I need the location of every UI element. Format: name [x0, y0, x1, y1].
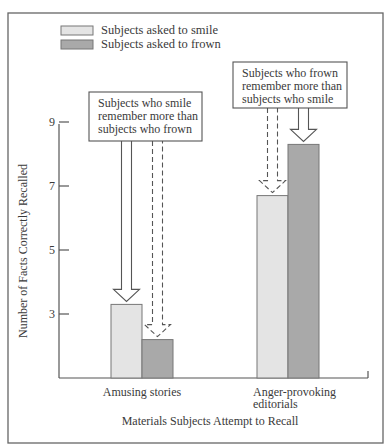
bar-smile [257, 196, 288, 378]
y-tick-label: 7 [49, 179, 55, 193]
y-axis-label: Number of Facts Correctly Recalled [16, 164, 30, 338]
bars [111, 144, 319, 378]
callout-text: remember more than [242, 79, 342, 93]
legend-swatch-smile [61, 26, 93, 35]
callout-text: subjects who smile [242, 92, 333, 106]
callout-text: subjects who frown [98, 122, 192, 136]
arrow-solid [291, 108, 317, 141]
chart-figure: Subjects asked to smile Subjects asked t… [0, 0, 390, 448]
legend-label-smile: Subjects asked to smile [101, 23, 218, 37]
callout-text: Subjects who frown [242, 66, 338, 80]
legend-label-frown: Subjects asked to frown [101, 37, 222, 51]
category-label: editorials [253, 397, 298, 411]
y-tick-label: 9 [49, 115, 55, 129]
x-axis-label: Materials Subjects Attempt to Recall [122, 414, 299, 428]
callout-text: remember more than [98, 109, 198, 123]
legend-swatch-frown [61, 40, 93, 49]
bar-frown [142, 340, 173, 378]
y-tick-label: 5 [49, 243, 55, 257]
bar-frown [288, 144, 319, 378]
bar-smile [111, 304, 142, 378]
annotation-callout: Subjects who smileremember more thansubj… [89, 92, 202, 337]
arrow-solid [114, 141, 140, 301]
y-tick-label: 3 [49, 307, 55, 321]
category-label: Amusing stories [103, 385, 182, 399]
legend: Subjects asked to smile Subjects asked t… [61, 23, 222, 51]
arrow-dashed [260, 108, 286, 193]
category-labels: Amusing storiesAnger-provokingeditorials [103, 385, 336, 411]
callout-text: Subjects who smile [98, 96, 191, 110]
arrow-dashed [145, 141, 171, 337]
